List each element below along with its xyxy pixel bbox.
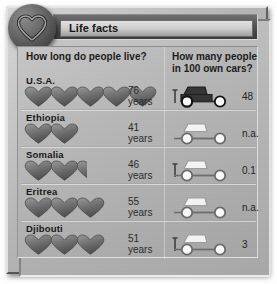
heart-icon — [8, 4, 56, 52]
cars-per-100-value: n.a. — [242, 202, 259, 213]
life-expectancy-value: 55years — [128, 196, 162, 218]
country-label: U.S.A. — [26, 76, 55, 86]
life-expectancy-number: 51 — [128, 233, 162, 244]
country-label: Eritrea — [26, 187, 58, 197]
life-expectancy-hearts — [24, 197, 102, 219]
right-column-heading: How many people in 100 own cars? — [172, 51, 264, 74]
life-expectancy-value: 76years — [128, 85, 162, 107]
life-expectancy-unit: years — [128, 96, 162, 107]
table-row: Ethiopia41yearsn.a. — [18, 111, 259, 148]
life-expectancy-number: 55 — [128, 196, 162, 207]
life-expectancy-value: 41years — [128, 122, 162, 144]
cars-per-100-value: n.a. — [242, 128, 259, 139]
facts-board: How long do people live? How many people… — [17, 46, 258, 258]
life-expectancy-hearts — [24, 160, 87, 182]
car-icon — [172, 119, 240, 145]
life-expectancy-number: 41 — [128, 122, 162, 133]
table-row: Eritrea55yearsn.a. — [18, 185, 259, 222]
page-title: Life facts — [61, 23, 118, 34]
life-expectancy-number: 46 — [128, 159, 162, 170]
cars-per-100-value: 0.1 — [242, 165, 256, 176]
car-icon — [172, 193, 240, 219]
table-row: Somalia46years0.1 — [18, 148, 259, 185]
life-expectancy-value: 51years — [128, 233, 162, 255]
title-bar-inner: Life facts — [60, 20, 253, 37]
title-bar: Life facts — [53, 14, 258, 40]
table-row: U.S.A.76years48 — [18, 74, 259, 111]
life-expectancy-value: 46years — [128, 159, 162, 181]
cars-per-100-value: 3 — [242, 239, 248, 250]
life-expectancy-hearts — [24, 234, 102, 256]
country-label: Somalia — [26, 150, 64, 160]
life-facts-panel: Life facts How long do people live? How … — [0, 0, 277, 284]
country-label: Ethiopia — [26, 113, 65, 123]
life-expectancy-number: 76 — [128, 85, 162, 96]
life-expectancy-hearts — [24, 123, 76, 145]
car-icon — [172, 82, 240, 108]
car-icon — [172, 156, 240, 182]
life-expectancy-unit: years — [128, 207, 162, 218]
life-expectancy-unit: years — [128, 244, 162, 255]
cars-per-100-value: 48 — [242, 91, 253, 102]
country-label: Djibouti — [26, 224, 63, 234]
car-icon — [172, 230, 240, 256]
life-expectancy-unit: years — [128, 133, 162, 144]
table-row: Djibouti51years3 — [18, 222, 259, 259]
heart-half-icon — [76, 160, 87, 181]
left-column-heading: How long do people live? — [26, 51, 164, 63]
life-expectancy-unit: years — [128, 170, 162, 181]
